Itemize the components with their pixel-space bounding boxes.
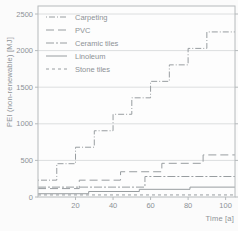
x-tick-label: 60	[146, 201, 154, 210]
legend-label-ceramic-tiles: Ceramic tiles	[75, 39, 119, 48]
y-tick-label: 0	[29, 193, 33, 202]
x-tick-label: 40	[109, 201, 117, 210]
legend-label-stone-tiles: Stone tiles	[75, 65, 110, 74]
y-tick-label: 1500	[16, 83, 33, 92]
y-tick-label: 2000	[16, 46, 33, 55]
y-tick-label: 1000	[16, 119, 33, 128]
floor-coverings-pei-chart: PEI (non-renewable) [MJ] 050010001500200…	[0, 0, 238, 231]
x-tick-label: 80	[184, 201, 192, 210]
x-tick-label: 100	[219, 201, 232, 210]
legend-label-carpeting: Carpeting	[75, 13, 108, 22]
x-axis-title: Time [a]	[206, 214, 234, 223]
chart-svg: 0500100015002000250020406080100Carpeting…	[0, 0, 238, 231]
legend-label-linoleum: Linoleum	[75, 52, 105, 61]
x-tick-label: 20	[71, 201, 79, 210]
plot-area	[38, 6, 235, 197]
y-tick-label: 500	[20, 156, 33, 165]
legend-label-pvc: PVC	[75, 26, 91, 35]
y-tick-label: 2500	[16, 10, 33, 19]
